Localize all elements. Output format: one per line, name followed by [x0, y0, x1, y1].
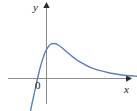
origin-label: 0 [35, 80, 41, 91]
arrow-up-icon [43, 2, 49, 8]
graph-canvas [0, 0, 137, 111]
figure-container: y x 0 [0, 0, 137, 111]
function-curve [30, 43, 137, 111]
x-axis-label: x [124, 84, 129, 95]
y-axis-label: y [33, 2, 38, 13]
